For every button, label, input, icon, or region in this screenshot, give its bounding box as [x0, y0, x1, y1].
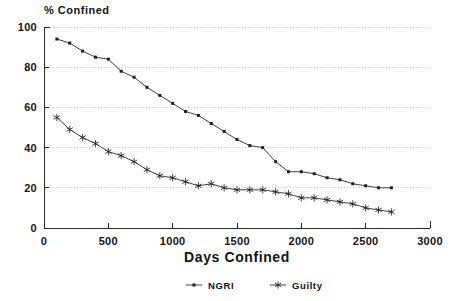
- data-point-marker: [223, 130, 226, 133]
- y-tick-label: 60: [24, 101, 37, 113]
- legend-label: NGRI: [208, 280, 234, 291]
- data-point-marker: [236, 138, 239, 141]
- data-point-marker: [79, 134, 85, 141]
- survival-curve-chart: 050010001500200025003000 020406080100 % …: [0, 0, 452, 301]
- data-point-marker: [182, 178, 188, 185]
- data-point-marker: [338, 178, 341, 181]
- data-point-marker: [68, 42, 71, 45]
- x-tick-label: 3000: [417, 235, 443, 247]
- axes: [44, 27, 430, 228]
- series-guilty: [54, 114, 395, 216]
- data-point-marker: [377, 186, 380, 189]
- data-point-marker: [81, 50, 84, 53]
- data-point-marker: [55, 38, 58, 41]
- y-tick-label: 20: [24, 182, 37, 194]
- y-tick-label: 100: [18, 21, 37, 33]
- y-axis-title: % Confined: [44, 4, 110, 16]
- x-tick-label: 1500: [224, 235, 250, 247]
- data-point-marker: [313, 172, 316, 175]
- legend-marker: [193, 284, 196, 287]
- x-tick-label: 2500: [353, 235, 379, 247]
- data-point-marker: [287, 170, 290, 173]
- legend-label: Guilty: [292, 280, 323, 291]
- legend-item-ngri: NGRI: [186, 280, 234, 291]
- data-point-marker: [131, 158, 137, 165]
- axis-ticks: [44, 27, 366, 228]
- data-point-marker: [158, 94, 161, 97]
- x-tick-label: 2000: [288, 235, 314, 247]
- data-point-marker: [145, 86, 148, 89]
- data-point-marker: [364, 184, 367, 187]
- x-tick-label: 0: [41, 235, 47, 247]
- data-point-marker: [107, 58, 110, 61]
- x-tick-label: 500: [99, 235, 118, 247]
- data-point-marker: [133, 76, 136, 79]
- x-tick-labels: 050010001500200025003000: [41, 235, 443, 247]
- y-tick-labels: 020406080100: [18, 21, 37, 234]
- series-line-ngri: [57, 39, 392, 188]
- legend-item-guilty: Guilty: [270, 280, 323, 291]
- data-point-marker: [118, 152, 124, 159]
- data-point-marker: [326, 176, 329, 179]
- data-point-marker: [105, 148, 111, 155]
- x-axis-title: Days Confined: [184, 249, 290, 265]
- data-series: [54, 38, 395, 216]
- x-tick-label: 1000: [160, 235, 186, 247]
- data-point-marker: [261, 146, 264, 149]
- data-point-marker: [144, 166, 150, 173]
- series-ngri: [55, 38, 393, 190]
- data-point-marker: [197, 114, 200, 117]
- chart-legend: NGRIGuilty: [186, 280, 323, 291]
- data-point-marker: [274, 160, 277, 163]
- chart-container: 050010001500200025003000 020406080100 % …: [0, 0, 452, 301]
- data-point-marker: [248, 144, 251, 147]
- y-tick-label: 40: [24, 142, 37, 154]
- y-tick-label: 80: [24, 61, 37, 73]
- gridlines: [44, 27, 430, 188]
- data-point-marker: [184, 110, 187, 113]
- data-point-marker: [120, 70, 123, 73]
- data-point-marker: [171, 102, 174, 105]
- y-tick-label: 0: [31, 222, 37, 234]
- data-point-marker: [210, 122, 213, 125]
- data-point-marker: [94, 56, 97, 59]
- data-point-marker: [351, 182, 354, 185]
- data-point-marker: [390, 186, 393, 189]
- data-point-marker: [300, 170, 303, 173]
- data-point-marker: [92, 140, 98, 147]
